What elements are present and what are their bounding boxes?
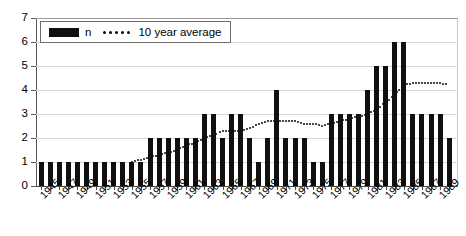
average-line-dot (137, 159, 139, 161)
y-tick-mark-1 (31, 162, 36, 163)
average-line-dot (336, 121, 338, 123)
average-line-dot (219, 131, 221, 133)
x-tick-mark (241, 186, 242, 190)
x-tick-mark (123, 186, 124, 190)
average-line-dot (321, 125, 323, 127)
average-line-dot (315, 123, 317, 125)
average-line-dot (421, 82, 423, 84)
x-tick-mark (286, 186, 287, 190)
x-tick-mark (431, 186, 432, 190)
average-line-dot (412, 82, 414, 84)
average-line-dot (358, 115, 360, 117)
average-line-dot (158, 154, 160, 156)
average-line-dot (167, 151, 169, 153)
average-line-dot (276, 120, 278, 122)
average-line-dot (379, 106, 381, 108)
x-tick-mark (50, 186, 51, 190)
average-line-dot (288, 120, 290, 122)
average-line-dot (436, 82, 438, 84)
y-tick-mark-2 (31, 138, 36, 139)
average-line-dot (146, 157, 148, 159)
average-line-dot (212, 135, 214, 137)
x-axis-tick-marks (36, 186, 458, 191)
x-tick-mark (377, 186, 378, 190)
x-tick-mark (268, 186, 269, 190)
average-line-dot (391, 96, 393, 98)
average-line-dot (258, 123, 260, 125)
average-line-dot (442, 83, 444, 85)
x-tick-mark (114, 186, 115, 190)
average-line-dot (401, 87, 403, 89)
average-line-dot (351, 117, 353, 119)
average-line-dot (161, 153, 163, 155)
average-line-dot (228, 130, 230, 132)
chart-container: 01234567 1945194719491951195319551957195… (0, 0, 466, 236)
average-line-dot (388, 99, 390, 101)
average-line-dot (152, 155, 154, 157)
x-tick-mark (159, 186, 160, 190)
y-tick-mark-6 (31, 42, 36, 43)
plot-area (36, 18, 458, 186)
legend-bar-label: n (85, 26, 91, 38)
average-line-dot (134, 160, 136, 162)
x-tick-mark (41, 186, 42, 190)
average-line-dot (396, 91, 398, 93)
x-tick-mark (422, 186, 423, 190)
y-tick-mark-4 (31, 90, 36, 91)
average-line-dot (361, 115, 363, 117)
chart-legend: n 10 year average (40, 21, 231, 43)
y-tick-mark-7 (31, 18, 36, 19)
average-line-dot (188, 143, 190, 145)
average-line-dot (194, 142, 196, 144)
average-line-dot (143, 158, 145, 160)
average-line-dot (215, 133, 217, 135)
x-tick-mark (313, 186, 314, 190)
y-tick-mark-5 (31, 66, 36, 67)
average-line-dot (255, 124, 257, 126)
x-tick-mark (304, 186, 305, 190)
average-line-dot (294, 120, 296, 122)
y-tick-label-5: 5 (6, 60, 28, 72)
average-line-dot (149, 156, 151, 158)
average-line-dot (203, 137, 205, 139)
x-tick-mark (204, 186, 205, 190)
average-line-dot (206, 136, 208, 138)
average-line-dot (403, 84, 405, 86)
average-line-dot (209, 135, 211, 137)
x-tick-mark (223, 186, 224, 190)
x-tick-mark (59, 186, 60, 190)
average-line-dot (179, 147, 181, 149)
average-line-dot (131, 161, 133, 163)
y-tick-label-2: 2 (6, 132, 28, 144)
average-line-dot (237, 130, 239, 132)
y-tick-label-3: 3 (6, 108, 28, 120)
average-line-dot (430, 82, 432, 84)
average-line-dot (264, 121, 266, 123)
legend-line-swatch (103, 31, 130, 34)
average-line-dot (324, 124, 326, 126)
average-line-dot (164, 152, 166, 154)
average-line-dot (398, 89, 400, 91)
x-tick-mark (87, 186, 88, 190)
legend-line-label: 10 year average (138, 26, 221, 38)
x-tick-mark (132, 186, 133, 190)
average-line-dot (176, 149, 178, 151)
y-tick-label-1: 1 (6, 156, 28, 168)
average-line-dot (418, 82, 420, 84)
average-line-dot (246, 128, 248, 130)
y-tick-mark-3 (31, 114, 36, 115)
y-tick-label-0: 0 (6, 180, 28, 192)
average-line-dot (231, 130, 233, 132)
average-line-dot (354, 116, 356, 118)
average-line-dot (155, 155, 157, 157)
x-tick-mark (368, 186, 369, 190)
y-tick-label-7: 7 (6, 12, 28, 24)
average-line-dot (345, 119, 347, 121)
x-tick-mark (105, 186, 106, 190)
x-tick-mark (177, 186, 178, 190)
average-line-dot (312, 123, 314, 125)
average-line-dot (342, 119, 344, 121)
x-tick-mark (150, 186, 151, 190)
average-line-dot (234, 130, 236, 132)
x-tick-mark (395, 186, 396, 190)
